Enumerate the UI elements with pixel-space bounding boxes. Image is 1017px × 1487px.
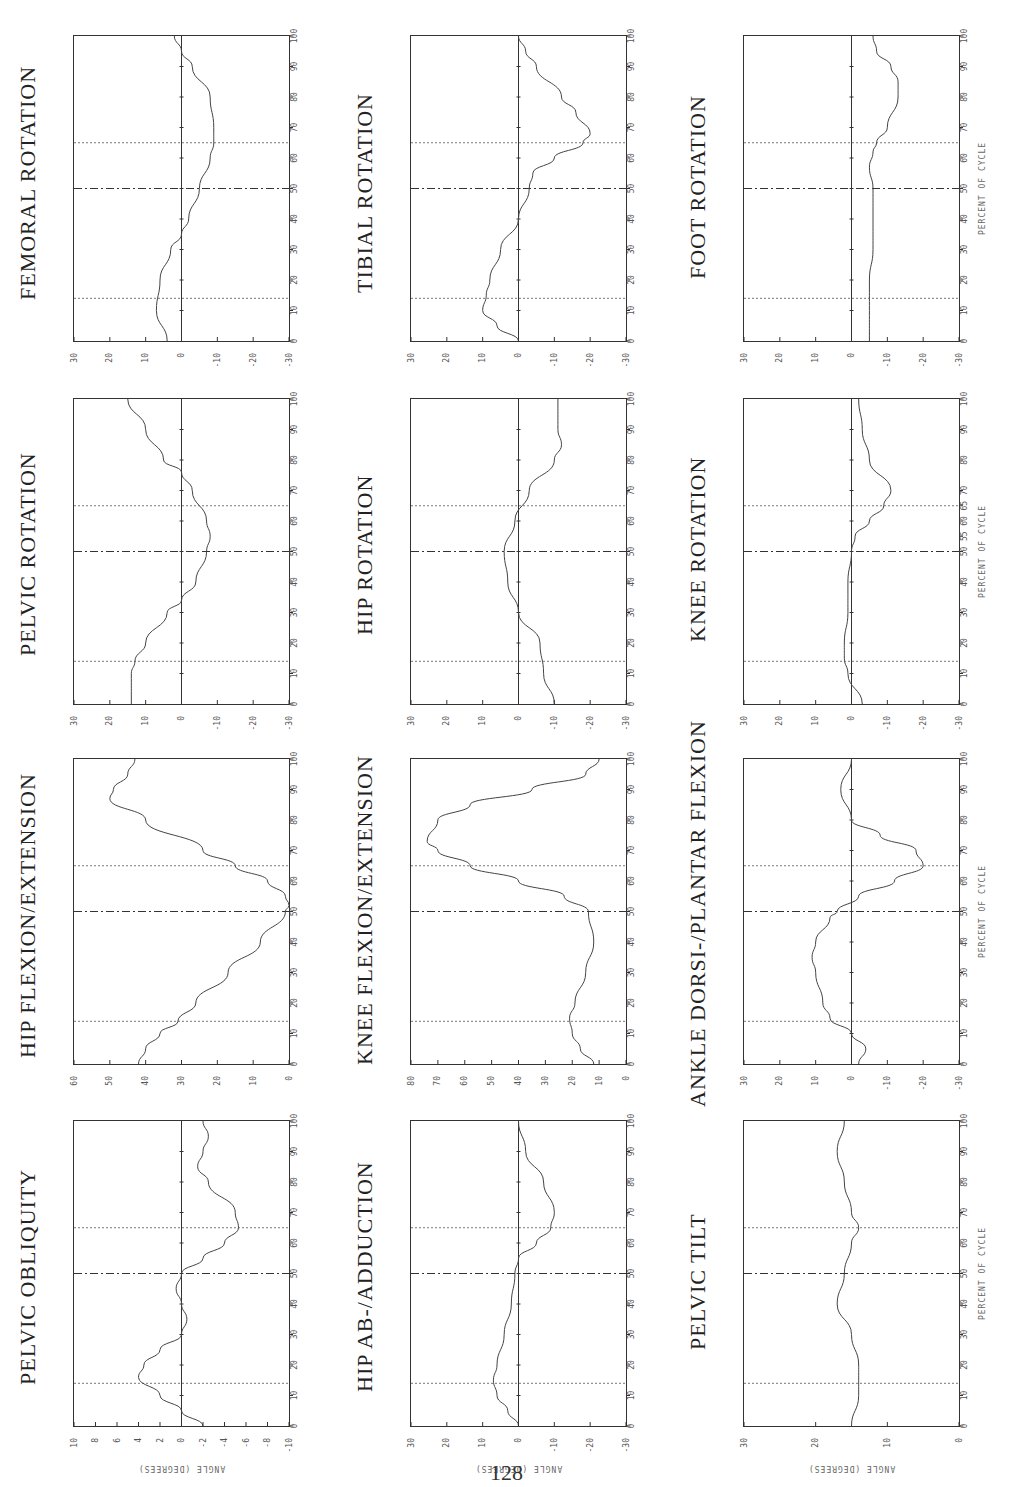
svg-text:50: 50 — [960, 907, 969, 917]
svg-text:30: 30 — [290, 968, 299, 978]
svg-text:20: 20 — [290, 998, 299, 1008]
svg-text:0: 0 — [627, 701, 636, 706]
svg-text:10: 10 — [141, 716, 150, 726]
svg-text:50: 50 — [290, 907, 299, 917]
svg-text:50: 50 — [290, 547, 299, 557]
svg-text:20: 20 — [811, 1438, 820, 1448]
svg-text:50: 50 — [960, 1269, 969, 1279]
svg-text:0: 0 — [955, 1438, 964, 1443]
svg-text:-20: -20 — [249, 716, 258, 731]
svg-text:40: 40 — [290, 214, 299, 224]
svg-text:10: 10 — [811, 716, 820, 726]
svg-text:80: 80 — [960, 1177, 969, 1187]
svg-text:10: 10 — [627, 1029, 636, 1039]
svg-text:80: 80 — [290, 815, 299, 825]
svg-text:55: 55 — [960, 531, 969, 541]
svg-text:50: 50 — [627, 1269, 636, 1279]
svg-text:10: 10 — [960, 1391, 969, 1401]
svg-text:100: 100 — [290, 752, 299, 767]
svg-text:10: 10 — [478, 716, 487, 726]
svg-text:30: 30 — [960, 968, 969, 978]
svg-text:60: 60 — [627, 1238, 636, 1248]
svg-text:40: 40 — [627, 214, 636, 224]
chart-title: TIBIAL ROTATION — [352, 92, 378, 292]
svg-text:80: 80 — [627, 815, 636, 825]
svg-text:80: 80 — [290, 1177, 299, 1187]
svg-text:PERCENT OF CYCLE: PERCENT OF CYCLE — [978, 142, 987, 235]
plot-area: 01020304050607080901003020100-10-20-30PE… — [743, 35, 960, 342]
svg-text:60: 60 — [960, 153, 969, 163]
svg-text:10: 10 — [141, 353, 150, 363]
svg-text:20: 20 — [775, 716, 784, 726]
chart-title: HIP ROTATION — [352, 474, 378, 634]
svg-text:70: 70 — [960, 123, 969, 133]
svg-text:20: 20 — [290, 275, 299, 285]
svg-text:4: 4 — [134, 1438, 143, 1443]
svg-text:100: 100 — [960, 1114, 969, 1129]
svg-text:6: 6 — [113, 1438, 122, 1443]
svg-text:100: 100 — [290, 1114, 299, 1129]
svg-text:10: 10 — [883, 1438, 892, 1448]
svg-text:70: 70 — [960, 486, 969, 496]
svg-text:30: 30 — [740, 716, 749, 726]
svg-text:80: 80 — [627, 92, 636, 102]
svg-text:0: 0 — [627, 1061, 636, 1066]
svg-text:-30: -30 — [285, 353, 294, 368]
svg-text:-20: -20 — [249, 353, 258, 368]
svg-text:20: 20 — [442, 1438, 451, 1448]
svg-text:10: 10 — [960, 306, 969, 316]
svg-text:30: 30 — [290, 245, 299, 255]
svg-text:20: 20 — [627, 638, 636, 648]
svg-text:80: 80 — [960, 815, 969, 825]
svg-text:90: 90 — [290, 62, 299, 72]
svg-text:-20: -20 — [586, 1438, 595, 1453]
svg-text:20: 20 — [442, 353, 451, 363]
svg-text:-20: -20 — [586, 716, 595, 731]
svg-text:40: 40 — [514, 1076, 523, 1086]
svg-text:30: 30 — [627, 608, 636, 618]
svg-text:30: 30 — [407, 353, 416, 363]
svg-text:70: 70 — [627, 123, 636, 133]
svg-text:70: 70 — [960, 846, 969, 856]
chart-title: FOOT ROTATION — [685, 95, 711, 279]
svg-text:30: 30 — [290, 1330, 299, 1340]
chart-title: KNEE FLEXION/EXTENSION — [352, 755, 378, 1065]
svg-text:-8: -8 — [263, 1438, 272, 1448]
svg-text:10: 10 — [290, 1391, 299, 1401]
svg-text:-30: -30 — [285, 716, 294, 731]
svg-text:-30: -30 — [622, 716, 631, 731]
plot-area: 01020304050607080901003020100-10-20-30 — [410, 398, 627, 705]
plot-area: 01020304050607080901001086420-2-4-6-8-10… — [73, 1120, 290, 1427]
svg-text:90: 90 — [960, 785, 969, 795]
svg-text:90: 90 — [627, 62, 636, 72]
svg-text:-10: -10 — [213, 716, 222, 731]
svg-text:-2: -2 — [199, 1438, 208, 1448]
svg-text:50: 50 — [487, 1076, 496, 1086]
svg-text:30: 30 — [960, 245, 969, 255]
svg-text:60: 60 — [960, 876, 969, 886]
svg-text:100: 100 — [960, 29, 969, 44]
svg-text:2: 2 — [156, 1438, 165, 1443]
chart-title: FEMORAL ROTATION — [15, 65, 41, 299]
svg-text:20: 20 — [775, 353, 784, 363]
svg-text:-10: -10 — [550, 1438, 559, 1453]
svg-text:100: 100 — [960, 392, 969, 407]
svg-text:0: 0 — [514, 353, 523, 358]
svg-text:100: 100 — [290, 392, 299, 407]
svg-text:70: 70 — [290, 846, 299, 856]
svg-text:70: 70 — [290, 123, 299, 133]
svg-text:10: 10 — [960, 669, 969, 679]
svg-text:80: 80 — [407, 1076, 416, 1086]
svg-text:-6: -6 — [242, 1438, 251, 1448]
svg-text:20: 20 — [627, 275, 636, 285]
svg-text:10: 10 — [811, 1076, 820, 1086]
svg-text:10: 10 — [627, 1391, 636, 1401]
svg-text:80: 80 — [960, 92, 969, 102]
svg-text:100: 100 — [627, 752, 636, 767]
svg-text:50: 50 — [627, 547, 636, 557]
svg-text:-20: -20 — [919, 353, 928, 368]
svg-text:20: 20 — [627, 998, 636, 1008]
svg-text:20: 20 — [960, 638, 969, 648]
plot-area: 01020304050607080901006050403020100 — [73, 758, 290, 1065]
svg-text:40: 40 — [290, 1299, 299, 1309]
